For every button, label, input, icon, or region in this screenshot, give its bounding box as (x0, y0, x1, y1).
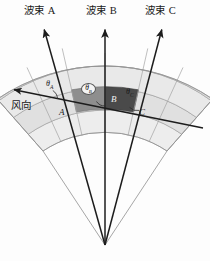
cell-label-b: B (111, 95, 117, 104)
angle-label-c-sub: C (130, 92, 134, 98)
cell-label-a: A (59, 108, 65, 117)
beam-sector-diagram (0, 0, 210, 261)
beam-b-label: 波束 B (86, 6, 117, 17)
cell-label-c: C (139, 108, 145, 117)
angle-label-a: θA (46, 80, 53, 90)
wind-direction-label: 风向 (11, 101, 32, 112)
beam-a-label: 波束 A (24, 6, 56, 17)
angle-label-b-bubble: θB (81, 83, 96, 95)
angle-label-b: θB (85, 84, 92, 94)
beam-c-label: 波束 C (145, 6, 176, 17)
angle-label-a-sub: A (50, 84, 53, 90)
angle-label-b-sub: B (89, 89, 92, 94)
angle-label-c: θC (126, 88, 134, 98)
figure-root: 波束 A 波束 B 波束 C 风向 A B C θA θB θC (0, 0, 210, 261)
